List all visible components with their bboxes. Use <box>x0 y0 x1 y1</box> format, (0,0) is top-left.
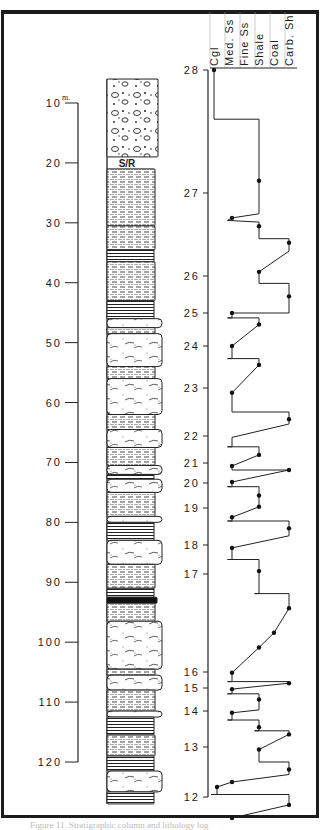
lithology-class-headers: CglMed. SsFine SsShaleCoalCarb. Sh <box>208 12 297 68</box>
log-tick-label: 26 <box>184 270 200 282</box>
log-tick-label: 12 <box>184 791 200 803</box>
bed-shale <box>107 447 155 465</box>
log-data-point <box>257 322 261 326</box>
lithologic-column: S/R <box>107 79 162 804</box>
log-data-point <box>257 725 261 729</box>
depth-axis-meters: 102030405060708090100110120m. <box>38 93 78 768</box>
log-data-point <box>230 546 234 550</box>
log-data-point <box>230 344 234 348</box>
depth-tick-label: 80 <box>46 516 62 528</box>
bed-sandstone <box>107 479 162 492</box>
log-data-point <box>257 697 261 701</box>
log-tick-label: 16 <box>184 666 200 678</box>
bed-shale-laminated <box>107 301 154 319</box>
log-data-point <box>287 468 291 472</box>
bed-shale <box>107 367 155 379</box>
log-data-point <box>215 785 219 789</box>
figure-caption: Figure 11. Stratigraphic column and lith… <box>30 820 208 830</box>
log-data-point <box>230 671 234 675</box>
log-data-point <box>257 363 261 367</box>
depth-unit-label: m. <box>62 93 70 102</box>
bed-sandstone <box>107 465 162 474</box>
log-data-point <box>230 711 234 715</box>
bed-sandstone <box>107 675 162 690</box>
depth-tick-label: 60 <box>46 397 62 409</box>
log-data-point <box>257 224 261 228</box>
bed-conglomerate <box>107 79 158 157</box>
log-depth-axis: 2827262524232221201918171615141312 <box>184 64 208 803</box>
log-data-point <box>257 505 261 509</box>
bed-shale <box>107 226 155 250</box>
log-tick-label: 15 <box>184 682 200 694</box>
bed-coal <box>107 597 157 603</box>
log-data-point <box>272 631 276 635</box>
bed-shale <box>107 669 155 675</box>
log-data-point <box>257 747 261 751</box>
log-data-point <box>287 681 291 685</box>
log-data-point <box>287 606 291 610</box>
stratigraphic-figure: 102030405060708090100110120m. S/R CglMed… <box>0 0 328 830</box>
log-data-point <box>257 645 261 649</box>
log-tick-label: 23 <box>184 382 200 394</box>
bed-sandstone <box>107 516 162 522</box>
bed-shale-laminated <box>107 250 154 262</box>
log-data-point <box>230 780 234 784</box>
log-data-point <box>230 687 234 691</box>
depth-tick-label: 20 <box>46 157 62 169</box>
bed-shale <box>107 735 155 756</box>
log-data-point <box>287 732 291 736</box>
log-data-point <box>287 767 291 771</box>
log-data-point <box>230 391 234 395</box>
bed-shale <box>107 328 155 334</box>
log-data-point <box>212 68 216 72</box>
lithology-log-line <box>211 68 291 820</box>
log-data-point <box>257 493 261 497</box>
bed-shale-laminated <box>107 474 154 479</box>
bed-shale-laminated <box>107 756 154 771</box>
bed-shale-laminated <box>107 522 154 540</box>
log-data-point <box>230 311 234 315</box>
bed-shale-laminated <box>107 717 154 735</box>
log-tick-label: 24 <box>184 340 200 352</box>
log-data-point <box>257 453 261 457</box>
log-data-point <box>257 270 261 274</box>
depth-tick-label: 30 <box>46 217 62 229</box>
depth-tick-label: 100 <box>38 636 62 648</box>
depth-tick-label: 70 <box>46 456 62 468</box>
bed-sandstone <box>107 711 162 717</box>
log-tick-label: 27 <box>184 187 200 199</box>
bed-sandstone <box>107 540 162 564</box>
log-tick-label: 20 <box>184 477 200 489</box>
bed-sandstone <box>107 334 162 367</box>
log-data-point <box>287 294 291 298</box>
log-tick-label: 22 <box>184 430 200 442</box>
log-data-point <box>287 241 291 245</box>
bed-shale-laminated <box>107 588 154 597</box>
log-data-point <box>230 216 234 220</box>
log-tick-label: 19 <box>184 502 200 514</box>
bed-sandstone <box>107 379 162 415</box>
no-record-label: S/R <box>119 158 136 169</box>
depth-tick-label: 90 <box>46 576 62 588</box>
depth-tick-label: 110 <box>38 696 62 708</box>
log-data-point <box>230 515 234 519</box>
bed-shale <box>107 690 155 711</box>
log-data-point <box>230 816 234 820</box>
log-tick-label: 14 <box>184 705 200 717</box>
log-data-point <box>287 803 291 807</box>
bed-shale <box>107 415 155 430</box>
log-data-point <box>287 417 291 421</box>
bed-shale-laminated <box>107 792 154 804</box>
bed-sandstone <box>107 430 162 448</box>
depth-tick-label: 120 <box>38 756 62 768</box>
depth-tick-label: 10 <box>46 97 62 109</box>
log-data-point <box>230 480 234 484</box>
bed-sandstone <box>107 621 162 669</box>
log-data-point <box>287 526 291 530</box>
log-tick-label: 17 <box>184 568 200 580</box>
bed-shale <box>107 564 155 588</box>
bed-sandstone <box>107 319 162 328</box>
depth-tick-label: 50 <box>46 337 62 349</box>
log-tick-label: 21 <box>184 457 200 469</box>
bed-sandstone <box>107 771 162 792</box>
